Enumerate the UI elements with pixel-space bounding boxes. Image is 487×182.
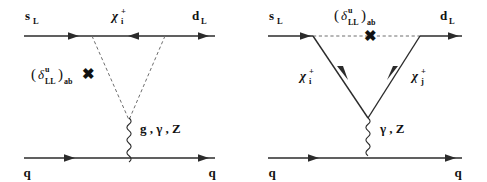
- svg-text:LL: LL: [45, 77, 56, 86]
- left-boson-wavy-line: [127, 118, 131, 162]
- svg-text:χ: χ: [298, 68, 307, 83]
- svg-text:d: d: [192, 8, 200, 23]
- svg-text:δ: δ: [38, 67, 45, 82]
- svg-text:L: L: [201, 16, 207, 26]
- svg-text:j: j: [420, 76, 424, 86]
- svg-text:d: d: [440, 8, 448, 23]
- svg-text:(: (: [334, 7, 339, 24]
- right-label-sL: s L: [269, 8, 283, 26]
- right-label-chargino-j: χ + j: [410, 66, 426, 86]
- right-label-q-out: q: [454, 165, 462, 180]
- svg-text:ab: ab: [64, 77, 73, 86]
- svg-text:i: i: [121, 16, 124, 26]
- svg-text:): ): [361, 7, 366, 24]
- right-label-dL: d L: [440, 8, 455, 26]
- left-arrow-dL: [198, 32, 209, 40]
- right-label-q-in: q: [268, 165, 276, 180]
- right-arrow-sL: [300, 32, 311, 40]
- svg-text:L: L: [33, 16, 39, 26]
- right-diagram: ✖ ( δ u LL ) ab s L d L χ: [268, 6, 462, 180]
- left-arrow-sL: [68, 32, 79, 40]
- svg-text:u: u: [348, 6, 353, 15]
- svg-text:δ: δ: [341, 8, 348, 23]
- right-arrow-q-in: [308, 154, 319, 162]
- left-boson-label: g , γ , Z: [140, 121, 181, 136]
- svg-text:i: i: [309, 76, 312, 86]
- left-squark-line-a: [92, 36, 129, 120]
- left-diagram: ... chargino ... --> d_L --> ✖ ( δ: [23, 6, 216, 180]
- left-label-chargino: χ + i: [110, 6, 126, 26]
- diagram-canvas: ... chargino ... --> d_L --> ✖ ( δ: [0, 0, 487, 182]
- left-label-q-out: q: [208, 165, 216, 180]
- svg-text:s: s: [269, 8, 274, 23]
- left-squark-line-b: [129, 36, 165, 120]
- svg-text:(: (: [31, 66, 36, 83]
- right-boson-label: γ , Z: [379, 121, 405, 136]
- right-arrow-dL: [448, 32, 459, 40]
- svg-text:L: L: [277, 16, 283, 26]
- right-boson-wavy-line: [366, 118, 370, 156]
- left-label-sL: s L: [25, 8, 39, 26]
- right-chargino-line-i: [313, 36, 368, 118]
- left-label-q-in: q: [23, 165, 31, 180]
- left-label-dL: d L: [192, 8, 207, 26]
- svg-text:+: +: [421, 66, 426, 76]
- right-label-chargino-i: χ + i: [298, 66, 314, 86]
- left-arrow-q-in: [64, 154, 75, 162]
- left-arrow-chargino: [128, 32, 139, 40]
- svg-text:+: +: [121, 6, 126, 16]
- left-arrow-q-out: [198, 154, 209, 162]
- svg-text:χ: χ: [410, 68, 419, 83]
- svg-text:+: +: [309, 66, 314, 76]
- right-mass-insertion-label: ( δ u LL ) ab: [334, 6, 376, 27]
- right-arrow-q-out: [445, 154, 456, 162]
- svg-text:LL: LL: [348, 18, 359, 27]
- left-mass-insertion-cross: ✖: [82, 65, 95, 82]
- right-mass-insertion-cross: ✖: [364, 27, 377, 44]
- svg-text:): ): [58, 66, 63, 83]
- svg-text:s: s: [25, 8, 30, 23]
- left-mass-insertion-label: ( δ u LL ) ab: [31, 65, 73, 86]
- svg-text:L: L: [449, 16, 455, 26]
- svg-text:ab: ab: [367, 18, 376, 27]
- svg-text:χ: χ: [110, 8, 119, 23]
- svg-text:u: u: [45, 65, 50, 74]
- feynman-diagram-figure: ... chargino ... --> d_L --> ✖ ( δ: [0, 0, 487, 182]
